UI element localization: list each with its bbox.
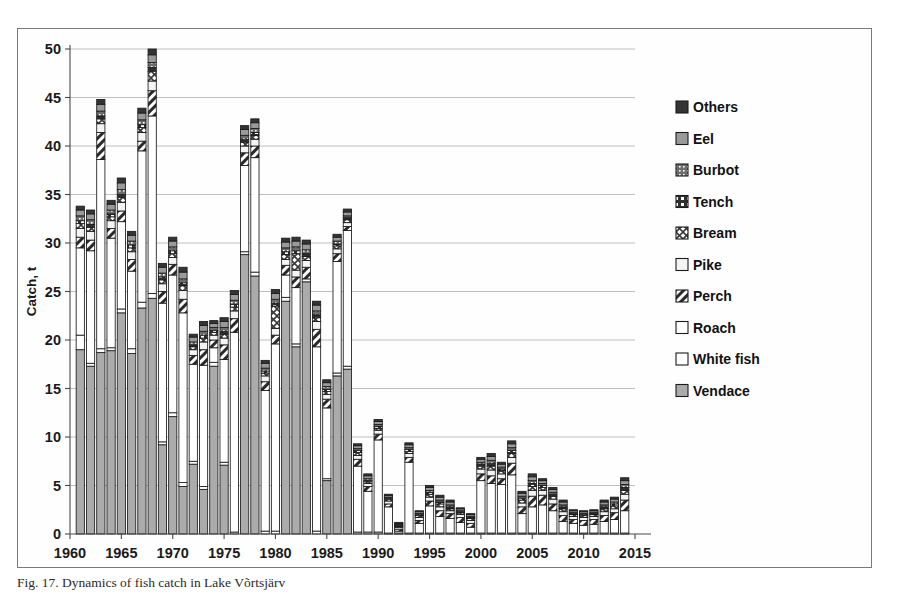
bar-segment-roach-1962: [86, 251, 94, 364]
bar-segment-eel-1964: [107, 204, 115, 210]
bar-segment-perch-1977: [241, 153, 249, 166]
bar-segment-burbot-1965: [117, 190, 125, 195]
bar-group-1985: [323, 380, 331, 534]
legend-label-tench: Tench: [693, 194, 733, 210]
bar-segment-roach-1994: [415, 523, 423, 533]
bar-segment-eel-2005: [528, 477, 536, 481]
figure-caption: Fig. 17. Dynamics of fish catch in Lake …: [17, 575, 877, 591]
legend-item-pike[interactable]: Pike: [676, 257, 722, 273]
bar-segment-roach-1967: [138, 151, 146, 302]
legend-item-others[interactable]: Others: [676, 99, 738, 115]
bar-group-1997: [446, 500, 454, 534]
bar-segment-roach-1997: [446, 518, 454, 533]
bar-segment-eel-1982: [292, 241, 300, 247]
bar-segment-pike-1989: [364, 484, 372, 487]
bar-group-1996: [436, 495, 444, 534]
bar-segment-tench-1978: [251, 132, 259, 135]
bar-segment-tench-1966: [128, 245, 136, 248]
bar-segment-bream-1983: [302, 257, 310, 261]
bar-segment-vendace-1966: [128, 354, 136, 534]
bar-group-1975: [220, 318, 228, 534]
y-tick-label-45: 45: [45, 90, 61, 106]
bar-segment-burbot-1970: [169, 247, 177, 251]
bar-segment-vendace-1971: [179, 486, 187, 534]
bar-segment-bream-1963: [97, 119, 105, 124]
legend-item-bream[interactable]: Bream: [676, 225, 737, 241]
legend-item-burbot[interactable]: Burbot: [676, 162, 739, 178]
bar-segment-others-2010: [580, 511, 588, 512]
bar-segment-roach-1972: [189, 364, 197, 461]
bar-group-1993: [405, 443, 413, 534]
x-tick-label-1965: 1965: [105, 545, 137, 561]
bar-segment-eel-1967: [138, 113, 146, 120]
bar-segment-burbot-1982: [292, 247, 300, 251]
legend-item-eel[interactable]: Eel: [676, 131, 714, 147]
bar-segment-eel-1963: [97, 104, 105, 111]
bar-segment-perch-1968: [148, 91, 156, 116]
bar-segment-eel-1984: [312, 305, 320, 311]
bar-segment-others-1993: [405, 443, 413, 445]
bar-segment-perch-1971: [179, 299, 187, 313]
legend-label-white-fish: White fish: [693, 351, 760, 367]
legend-item-roach[interactable]: Roach: [676, 320, 736, 336]
bar-segment-burbot-1979: [261, 368, 269, 371]
bar-segment-pike-1971: [179, 291, 187, 300]
bar-segment-burbot-1961: [76, 216, 84, 221]
bar-group-1995: [425, 486, 433, 535]
legend-label-burbot: Burbot: [693, 162, 739, 178]
bar-segment-eel-1970: [169, 241, 177, 247]
legend-item-vendace[interactable]: Vendace: [676, 383, 750, 399]
bar-segment-bream-1974: [210, 332, 218, 335]
bar-segment-others-1985: [323, 380, 331, 383]
x-tick-label-2005: 2005: [516, 545, 548, 561]
bar-segment-roach-1966: [128, 271, 136, 349]
bar-segment-eel-1975: [220, 322, 228, 328]
bar-group-2004: [518, 491, 526, 534]
bar-segment-roach-2003: [508, 475, 516, 533]
bar-segment-vendace-1986: [333, 376, 341, 534]
legend-item-perch[interactable]: Perch: [676, 288, 732, 304]
bar-segment-bream-1984: [312, 318, 320, 322]
bar-segment-vendace-1967: [138, 308, 146, 534]
legend-item-white-fish[interactable]: White fish: [676, 351, 760, 367]
bar-segment-roach-1963: [97, 160, 105, 349]
bar-group-1974: [210, 321, 218, 534]
bar-segment-roach-1982: [292, 288, 300, 344]
bar-segment-vendace-1964: [107, 351, 115, 534]
y-tick-label-35: 35: [45, 187, 61, 203]
bar-segment-bream-1962: [86, 227, 94, 231]
bar-segment-pike-1962: [86, 231, 94, 240]
bar-segment-burbot-1975: [220, 327, 228, 331]
bar-segment-pike-1965: [117, 202, 125, 211]
bar-segment-pike-1991: [384, 501, 392, 504]
bar-segment-bream-2000: [477, 466, 485, 469]
bar-segment-others-1966: [128, 231, 136, 235]
bar-segment-white-fish-1961: [76, 335, 84, 350]
bar-segment-pike-1964: [107, 221, 115, 229]
bar-group-2012: [600, 500, 608, 534]
bar-segment-perch-1990: [374, 434, 382, 440]
y-axis-label: Catch, t: [24, 266, 39, 316]
bar-segment-others-2003: [508, 441, 516, 444]
bar-segment-pike-2009: [569, 517, 577, 520]
bar-segment-bream-1968: [148, 71, 156, 81]
bar-segment-vendace-1970: [169, 417, 177, 534]
x-tick-label-1995: 1995: [413, 545, 445, 561]
bar-segment-others-1991: [384, 494, 392, 495]
y-tick-label-50: 50: [45, 41, 61, 57]
bar-segment-eel-1988: [354, 446, 362, 449]
bar-segment-others-1974: [210, 321, 218, 324]
legend-item-tench[interactable]: Tench: [676, 194, 733, 210]
bar-segment-eel-1962: [86, 214, 94, 220]
bar-segment-perch-2013: [610, 513, 618, 520]
bar-segment-vendace-1963: [97, 353, 105, 534]
bar-segment-others-1998: [456, 508, 464, 509]
bar-segment-roach-1974: [210, 348, 218, 363]
bar-segment-burbot-1967: [138, 120, 146, 125]
x-tick-label-1990: 1990: [362, 545, 394, 561]
bar-segment-perch-2009: [569, 519, 577, 523]
bar-segment-pike-2002: [497, 474, 505, 479]
legend-swatch-vendace: [676, 385, 688, 397]
bar-segment-bream-2001: [487, 466, 495, 470]
bar-segment-pike-1987: [343, 223, 351, 227]
